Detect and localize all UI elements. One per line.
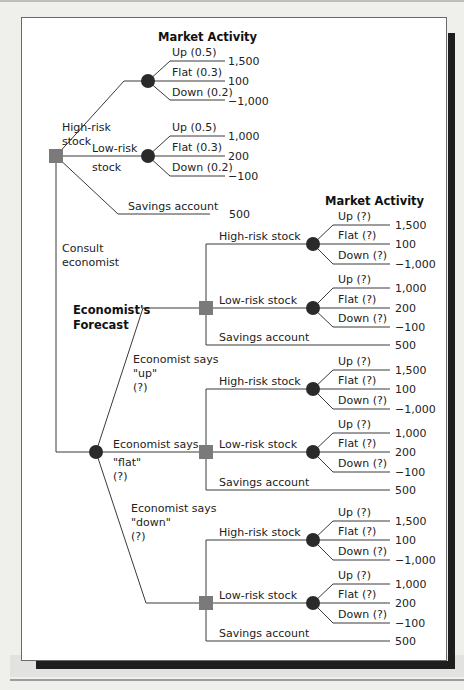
chance-node-high-risk: [141, 74, 155, 88]
outcome-value: 500: [395, 484, 416, 497]
label-high-risk-stock: High-risk stock: [219, 375, 301, 388]
outcome-value: 1,000: [395, 282, 427, 295]
label-savings-account: Savings account: [219, 627, 309, 640]
outcome-value: −1,000: [395, 554, 436, 567]
outcome-value: −100: [395, 617, 425, 630]
decision-node-forecast-down: [199, 596, 213, 610]
header-market-activity-right: Market Activity: [325, 194, 424, 208]
outcome-label: Down (0.2): [172, 161, 233, 174]
label-econ-up-line2: "up": [133, 367, 157, 380]
outcome-label: Down (?): [338, 249, 387, 262]
header-market-activity-top: Market Activity: [158, 30, 257, 44]
outcome-label: Up (0.5): [172, 46, 217, 59]
outcome-label: Up (?): [338, 418, 371, 431]
outcome-label: Up (?): [338, 273, 371, 286]
label-low-risk-line2: stock: [92, 161, 121, 174]
label-high-risk-stock: High-risk stock: [219, 230, 301, 243]
outcome-label: Up (0.5): [172, 121, 217, 134]
label-savings: Savings account: [128, 200, 218, 213]
decision-node-forecast-up: [199, 301, 213, 315]
label-high-risk-line1: High-risk: [62, 121, 111, 134]
outcome-label: Down (?): [338, 608, 387, 621]
outcome-value: −100: [395, 466, 425, 479]
outcome-label: Up (?): [338, 506, 371, 519]
label-consult-line2: economist: [62, 256, 119, 269]
outcome-value: 1,000: [228, 130, 260, 143]
outcome-label: Down (?): [338, 394, 387, 407]
label-savings-account: Savings account: [219, 331, 309, 344]
label-low-risk-stock: Low-risk stock: [219, 438, 297, 451]
label-econ-flat-line1: Economist says: [113, 438, 198, 451]
outcome-label: Up (?): [338, 355, 371, 368]
outcome-value: −100: [228, 170, 258, 183]
label-econ-up-line3: (?): [133, 381, 147, 394]
outcome-value: 1,500: [395, 219, 427, 232]
outcome-value: 100: [395, 534, 416, 547]
label-econ-down-line1: Economist says: [131, 502, 216, 515]
label-consult-line1: Consult: [62, 242, 103, 255]
outcome-label: Flat (?): [338, 229, 376, 242]
outcome-label: Up (?): [338, 569, 371, 582]
outcome-value: 1,500: [395, 515, 427, 528]
chance-node-low-risk: [141, 149, 155, 163]
outcome-value: −1,000: [395, 258, 436, 271]
outcome-value: −1,000: [395, 403, 436, 416]
outcome-value: 500: [395, 339, 416, 352]
outcome-label: Flat (?): [338, 374, 376, 387]
decision-node-forecast-flat: [199, 445, 213, 459]
label-savings-account: Savings account: [219, 476, 309, 489]
outcome-label: Down (?): [338, 312, 387, 325]
outcome-value: 200: [395, 302, 416, 315]
header-economists-forecast: Economist's Forecast: [73, 303, 143, 333]
outcome-value: 1,000: [395, 427, 427, 440]
outcome-value: 100: [395, 383, 416, 396]
outcome-label: Down (0.2): [172, 86, 233, 99]
outcome-value: 1,500: [395, 364, 427, 377]
outcome-label: Flat (?): [338, 437, 376, 450]
outcome-label: Up (?): [338, 210, 371, 223]
label-high-risk-line2: stock: [62, 135, 91, 148]
outcome-value: 1,000: [395, 578, 427, 591]
decision-node-root: [49, 149, 63, 163]
outcome-value: 1,500: [228, 55, 260, 68]
label-high-risk-stock: High-risk stock: [219, 526, 301, 539]
label-low-risk-stock: Low-risk stock: [219, 589, 297, 602]
outcome-value: −1,000: [228, 95, 269, 108]
outcome-value: 200: [395, 597, 416, 610]
outcome-value: 100: [395, 238, 416, 251]
label-econ-flat-line3: (?): [113, 470, 127, 483]
label-econ-up-line1: Economist says: [133, 353, 218, 366]
outcome-label: Flat (0.3): [172, 66, 222, 79]
outcome-label: Flat (?): [338, 525, 376, 538]
outcome-label: Flat (?): [338, 588, 376, 601]
outcome-label: Down (?): [338, 457, 387, 470]
outcome-value: −100: [395, 321, 425, 334]
label-econ-down-line2: "down": [131, 516, 171, 529]
outcome-label: Flat (0.3): [172, 141, 222, 154]
label-econ-down-line3: (?): [131, 530, 145, 543]
label-econ-flat-line2: "flat": [113, 456, 141, 469]
value-savings: 500: [229, 208, 250, 221]
label-low-risk-line1: Low-risk: [92, 142, 137, 155]
outcome-value: 200: [395, 446, 416, 459]
label-low-risk-stock: Low-risk stock: [219, 294, 297, 307]
outcome-value: 500: [395, 635, 416, 648]
chance-node-economist: [89, 445, 103, 459]
outcome-label: Down (?): [338, 545, 387, 558]
outcome-label: Flat (?): [338, 293, 376, 306]
